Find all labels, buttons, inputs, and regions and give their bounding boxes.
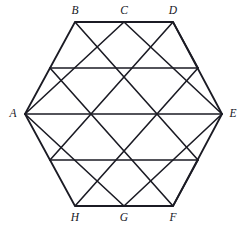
vertex-label-G: G [120,212,128,224]
vertex-label-F: F [169,212,176,224]
geometry-figure: A B C D E F G H [0,0,244,228]
vertex-label-A: A [9,108,16,120]
vertex-label-B: B [71,5,78,17]
vertex-label-D: D [169,5,177,17]
vertex-label-H: H [71,212,79,224]
vertex-label-C: C [120,5,128,17]
hexagon-triangular-grid-svg [0,0,244,228]
vertex-label-E: E [229,108,236,120]
